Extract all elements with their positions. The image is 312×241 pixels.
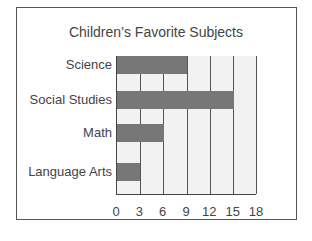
gridline [233,56,234,194]
category-label: Social Studies [30,92,112,107]
bar [117,124,164,142]
gridline [256,56,257,194]
category-label: Math [83,125,112,140]
x-tick-label: 12 [202,204,216,219]
x-tick-label: 0 [112,204,119,219]
chart-title: Children’s Favorite Subjects [0,24,312,40]
x-tick-label: 9 [182,204,189,219]
bar [117,163,140,181]
category-label: Language Arts [28,164,112,179]
gridline [187,56,188,194]
bar [117,91,234,109]
x-tick-label: 3 [136,204,143,219]
category-label: Science [66,57,112,72]
x-tick-label: 15 [225,204,239,219]
plot-area [116,56,256,195]
x-tick-label: 6 [159,204,166,219]
x-tick-label: 18 [249,204,263,219]
gridline [210,56,211,194]
bar [117,56,187,74]
